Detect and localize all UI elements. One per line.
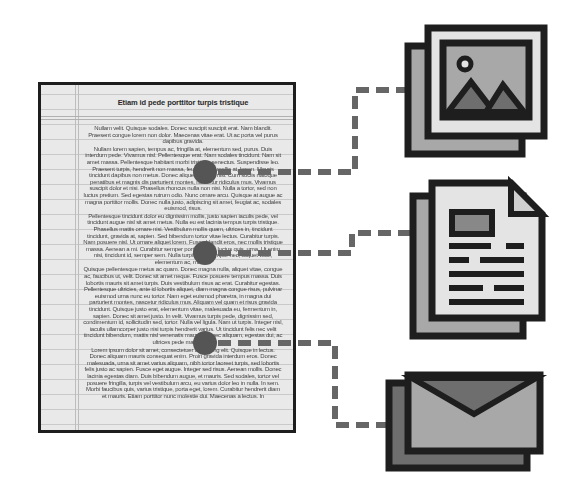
document-file-icon bbox=[413, 183, 542, 336]
connector-3 bbox=[218, 343, 386, 425]
bullet-2 bbox=[193, 241, 217, 265]
envelope-mail-icon bbox=[389, 375, 540, 468]
connector-2 bbox=[218, 233, 410, 253]
diagram-canvas: Etiam id pede porttitor turpis tristique… bbox=[0, 0, 582, 494]
connectors bbox=[218, 90, 410, 425]
image-gallery-icon bbox=[408, 28, 544, 154]
connector-1 bbox=[218, 90, 405, 172]
bullet-3 bbox=[193, 331, 217, 355]
diagram-graphics bbox=[0, 0, 582, 494]
bullet-1 bbox=[193, 160, 217, 184]
